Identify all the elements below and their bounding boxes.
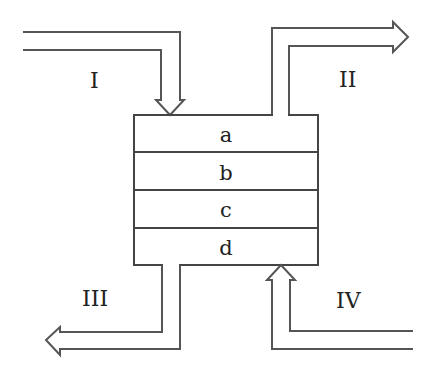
stream-ii-label: II bbox=[339, 67, 356, 92]
stream-i-pipe bbox=[23, 32, 184, 115]
layer-a-label: a bbox=[220, 123, 233, 147]
stream-i-label: I bbox=[90, 68, 99, 93]
layer-d-label: d bbox=[219, 236, 232, 260]
stream-iv-label: IV bbox=[336, 288, 362, 313]
stream-iii-label: III bbox=[82, 286, 108, 311]
layer-c-label: c bbox=[220, 198, 232, 222]
layer-b-label: b bbox=[219, 161, 232, 185]
flow-diagram: I II a b c d III IV bbox=[0, 0, 436, 371]
layered-box: a b c d bbox=[134, 115, 318, 265]
stream-iii-arrow-icon bbox=[46, 265, 180, 355]
stream-iii-pipe bbox=[46, 265, 180, 355]
stream-i-arrow-icon bbox=[23, 32, 184, 115]
